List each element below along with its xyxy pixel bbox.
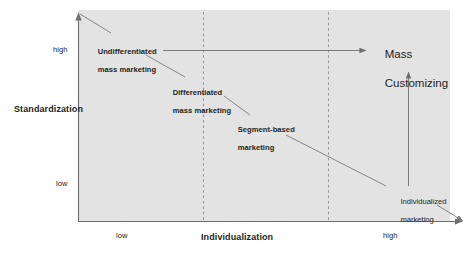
label-mass-customizing-line1: Mass (385, 48, 412, 60)
y-axis-title: Standardization (14, 104, 83, 115)
label-differentiated-line1: Differentiated (173, 88, 223, 97)
y-tick-high: high (53, 46, 67, 55)
label-differentiated-mass-marketing: Differentiated mass marketing (164, 80, 231, 125)
label-differentiated-line2: mass marketing (173, 106, 232, 115)
label-undifferentiated-line2: mass marketing (98, 65, 157, 74)
label-mass-customizing: Mass Customizing (372, 33, 448, 105)
x-axis-title: Individualization (201, 232, 273, 243)
diagram-canvas: Standardization Individualization high l… (0, 0, 476, 253)
label-undifferentiated-line1: Undifferentiated (98, 47, 157, 56)
y-tick-low: low (56, 180, 67, 189)
label-individualized-line1: Individualized (400, 197, 446, 206)
label-individualized-line2: marketing (400, 215, 433, 224)
label-segment-based-marketing: Segment-based marketing (229, 117, 295, 162)
trend-segment-4 (286, 135, 386, 186)
label-mass-customizing-line2: Customizing (385, 77, 448, 89)
label-undifferentiated-mass-marketing: Undifferentiated mass marketing (89, 39, 157, 84)
label-individualized-marketing: Individualized marketing (392, 189, 446, 234)
label-segment-based-line2: marketing (238, 143, 275, 152)
x-tick-low: low (116, 232, 127, 241)
trend-segment-1 (80, 14, 111, 33)
label-segment-based-line1: Segment-based (238, 125, 295, 134)
